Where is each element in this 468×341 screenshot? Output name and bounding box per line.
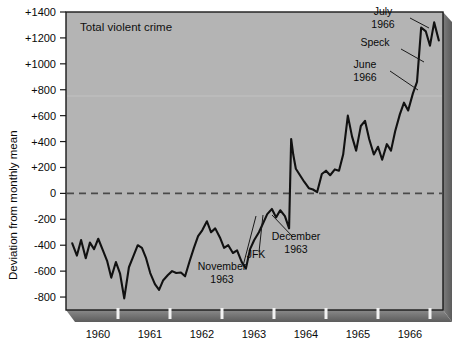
y-tick-label--600: -600	[34, 265, 56, 277]
x-tick-label-1963: 1963	[242, 328, 266, 340]
y-tick-label-200: +200	[31, 161, 56, 173]
x-tick-1964	[325, 308, 328, 319]
plot-side-shadow	[443, 12, 452, 322]
y-tick-label--800: -800	[34, 291, 56, 303]
x-tick-label-1961: 1961	[138, 328, 162, 340]
annotation-june-1966: June	[354, 58, 377, 70]
x-tick-label-1962: 1962	[190, 328, 214, 340]
plot-base-shadow	[66, 310, 452, 322]
y-tick-label-1000: +1000	[25, 58, 56, 70]
annotation-june-1966: 1966	[353, 71, 377, 83]
y-axis-title: Deviation from monthly mean	[7, 130, 19, 280]
annotation-december-1963: 1963	[284, 243, 308, 255]
scan-artifact	[67, 95, 442, 97]
x-tick-1965	[377, 308, 380, 319]
x-tick-1960	[117, 308, 120, 319]
plot-title: Total violent crime	[80, 21, 172, 33]
y-tick-label-800: +800	[31, 84, 56, 96]
x-tick-label-1965: 1965	[346, 328, 370, 340]
x-tick-1963	[273, 308, 276, 319]
y-tick-label--400: -400	[34, 239, 56, 251]
annotation-november-1963: 1963	[210, 273, 234, 285]
annotation-december-1963: December	[272, 230, 321, 242]
x-tick-1962	[221, 308, 224, 319]
annotation-speck: Speck	[360, 36, 390, 48]
x-tick-1961	[169, 308, 172, 319]
violent-crime-line-chart: +1400+1200+1000+800+600+400+2000-200-400…	[0, 0, 468, 341]
y-tick-label-1400: +1400	[25, 6, 56, 18]
y-tick-label-1200: +1200	[25, 32, 56, 44]
y-axis-ticks	[60, 12, 66, 297]
annotation-november-1963: November	[198, 260, 247, 272]
x-tick-label-1964: 1964	[294, 328, 318, 340]
annotation-july-1966: 1966	[371, 18, 395, 30]
x-tick-label-1966: 1966	[398, 328, 422, 340]
y-axis-tick-labels: +1400+1200+1000+800+600+400+2000-200-400…	[25, 6, 56, 303]
x-tick-1966	[429, 308, 432, 319]
plot-area	[66, 12, 443, 310]
chart-figure: +1400+1200+1000+800+600+400+2000-200-400…	[0, 0, 468, 341]
y-tick-label-600: +600	[31, 110, 56, 122]
y-tick-label--200: -200	[34, 213, 56, 225]
x-axis-tick-labels: 1960196119621963196419651966	[86, 328, 422, 340]
y-tick-label-0: 0	[50, 187, 56, 199]
annotation-july-1966: July	[374, 5, 393, 17]
x-tick-label-1960: 1960	[86, 328, 110, 340]
y-tick-label-400: +400	[31, 136, 56, 148]
annotation-jfk: JFK	[247, 248, 266, 260]
